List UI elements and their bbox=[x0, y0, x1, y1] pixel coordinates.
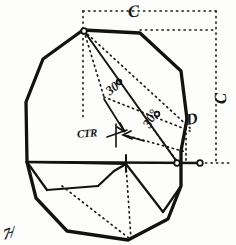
lower-inscribed-right-rise bbox=[98, 164, 126, 186]
lower-inscribed-diagonal-right bbox=[126, 164, 163, 212]
dotted-bisector-steep bbox=[84, 31, 104, 97]
lower-inscribed-polygon-group bbox=[27, 162, 181, 212]
lower-dotted-construction-group bbox=[62, 165, 131, 239]
vertex-marker-bottom-right-outer bbox=[197, 160, 203, 166]
decagon-left-upper-outline bbox=[26, 30, 83, 162]
label-point-d: D bbox=[185, 110, 199, 128]
vertex-marker-top bbox=[81, 28, 87, 34]
label-center-ctr: CTR bbox=[77, 127, 98, 139]
ctr-arrow-right-group bbox=[123, 131, 144, 141]
vertex-marker-bottom-right-inner bbox=[174, 160, 180, 166]
geometric-sketch-figure: C C D 30° 30° CTR 7̵/ bbox=[0, 0, 236, 245]
ctr-arrow-upper-group bbox=[104, 99, 125, 132]
decagon-upper-outline bbox=[83, 30, 187, 151]
dotted-bisector-to-d-upper bbox=[84, 31, 190, 128]
sketch-canvas bbox=[0, 0, 236, 245]
lower-inscribed-bottom-chord bbox=[47, 186, 98, 190]
label-side-c-top: C bbox=[127, 2, 140, 20]
label-side-c-right: C bbox=[212, 93, 229, 105]
dotted-diagonal-to-bottom-right-vertex bbox=[151, 126, 177, 161]
dotted-lower-center-diagonal bbox=[126, 165, 131, 239]
dotted-bisector-group bbox=[84, 31, 190, 162]
